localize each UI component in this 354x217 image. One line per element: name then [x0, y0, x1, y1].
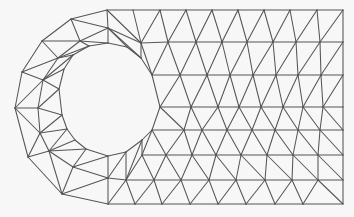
mesh-edge — [73, 156, 108, 167]
mesh-edge — [252, 130, 267, 155]
mesh-edge — [321, 75, 323, 107]
mesh-edge — [320, 42, 321, 75]
mesh-figure: Triangular finite element mesh of plate … — [0, 0, 354, 217]
mesh-edge — [191, 75, 207, 107]
mesh-edge — [320, 130, 343, 155]
mesh-edge — [75, 140, 86, 149]
mesh-edge — [43, 80, 59, 89]
mesh-edge — [42, 19, 71, 41]
mesh-edge — [160, 10, 168, 42]
mesh-edge — [59, 69, 64, 89]
mesh-edge — [108, 180, 126, 204]
mesh-edge — [298, 107, 303, 130]
mesh-edge — [86, 149, 108, 156]
mesh-edge — [317, 10, 320, 42]
mesh-edge — [141, 43, 152, 75]
mesh-edge — [218, 180, 236, 204]
mesh-edge — [58, 46, 89, 58]
mesh-edge — [239, 107, 252, 130]
mesh-edge — [261, 107, 275, 130]
mesh-edge — [318, 130, 320, 155]
mesh-edge — [42, 41, 58, 58]
mesh-edge — [209, 180, 218, 204]
mesh-edge — [207, 75, 218, 107]
mesh-edge — [160, 75, 180, 107]
mesh-edge — [202, 130, 216, 155]
mesh-edge — [253, 42, 273, 75]
mesh-edge — [59, 89, 62, 115]
mesh-edge — [186, 10, 196, 42]
mesh-edge — [303, 75, 321, 107]
mesh-edge — [265, 155, 267, 180]
mesh-edge — [283, 75, 298, 107]
mesh-edge — [40, 133, 49, 151]
mesh-edge — [108, 178, 126, 180]
mesh-edge — [71, 19, 80, 41]
mesh-edge — [298, 130, 318, 155]
mesh-edge — [321, 42, 343, 75]
mesh-edge — [238, 10, 247, 42]
mesh-edge — [293, 155, 318, 180]
mesh-edge — [28, 133, 40, 157]
mesh-edge — [62, 115, 67, 129]
mesh-edge — [298, 42, 320, 75]
mesh-edge — [181, 180, 190, 204]
mesh-edge — [212, 10, 222, 42]
mesh-edge — [283, 107, 298, 130]
mesh-edge — [241, 130, 252, 155]
mesh-edge — [141, 10, 160, 43]
mesh-edge — [71, 19, 108, 28]
mesh-edge — [230, 42, 247, 75]
mesh-edge — [142, 155, 154, 180]
mesh-edge — [323, 75, 343, 107]
mesh-edge — [135, 180, 154, 204]
mesh-edge — [49, 149, 86, 151]
mesh-edge — [292, 180, 303, 204]
mesh-edge — [192, 130, 202, 155]
mesh-edge — [252, 107, 261, 130]
mesh-edge — [80, 41, 108, 43]
mesh-edge — [192, 155, 209, 180]
mesh-edge — [154, 180, 162, 204]
mesh-edge — [261, 75, 276, 107]
mesh-edge — [292, 155, 293, 180]
mesh-edge — [184, 130, 192, 155]
mesh-edge — [247, 42, 253, 75]
mesh-edges — [15, 10, 343, 204]
mesh-edge — [218, 75, 230, 107]
mesh-edge — [265, 180, 275, 204]
mesh-edge — [71, 10, 107, 19]
mesh-edge — [227, 130, 241, 155]
mesh-edge — [181, 155, 192, 180]
mesh-edge — [73, 167, 108, 178]
mesh-edge — [230, 75, 239, 107]
mesh-edge — [318, 180, 343, 204]
mesh-edge — [180, 42, 196, 75]
mesh-edge — [162, 180, 181, 204]
mesh-edge — [247, 10, 264, 42]
mesh-edge — [276, 75, 283, 107]
mesh-edge — [207, 42, 222, 75]
mesh-edge — [267, 130, 275, 155]
mesh-edge — [320, 107, 323, 130]
mesh-edge — [222, 10, 238, 42]
mesh-edge — [108, 28, 127, 47]
mesh-edge — [320, 10, 343, 42]
mesh-edge — [126, 180, 135, 204]
mesh-edge — [184, 107, 191, 130]
mesh-edge — [152, 130, 166, 155]
mesh-edge — [154, 155, 166, 180]
mesh-edge — [38, 108, 40, 133]
mesh-edge — [227, 107, 239, 130]
mesh-edge — [62, 178, 108, 194]
mesh-edge — [166, 155, 181, 180]
mesh-edge — [22, 41, 42, 72]
mesh-edge — [15, 108, 28, 157]
mesh-edge — [152, 107, 160, 130]
mesh-edge — [216, 130, 227, 155]
mesh-edge — [107, 10, 108, 28]
mesh-edge — [218, 107, 227, 130]
mesh-edge — [152, 75, 160, 107]
mesh-edge — [22, 72, 43, 80]
mesh-edge — [38, 108, 62, 115]
